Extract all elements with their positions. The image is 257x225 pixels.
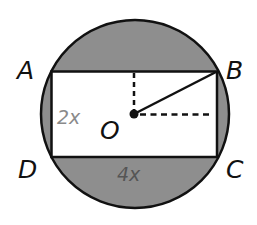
height-label-2x: 2x (57, 106, 81, 128)
center-point-o (130, 110, 139, 119)
vertex-label-a: A (15, 56, 34, 85)
width-label-4x: 4x (117, 163, 141, 185)
inscribed-rectangle-diagram: A B C D O 2x 4x (0, 0, 257, 225)
center-label-o: O (100, 116, 120, 145)
vertex-label-d: D (18, 155, 37, 184)
vertex-label-c: C (226, 155, 244, 184)
vertex-label-b: B (226, 56, 243, 85)
